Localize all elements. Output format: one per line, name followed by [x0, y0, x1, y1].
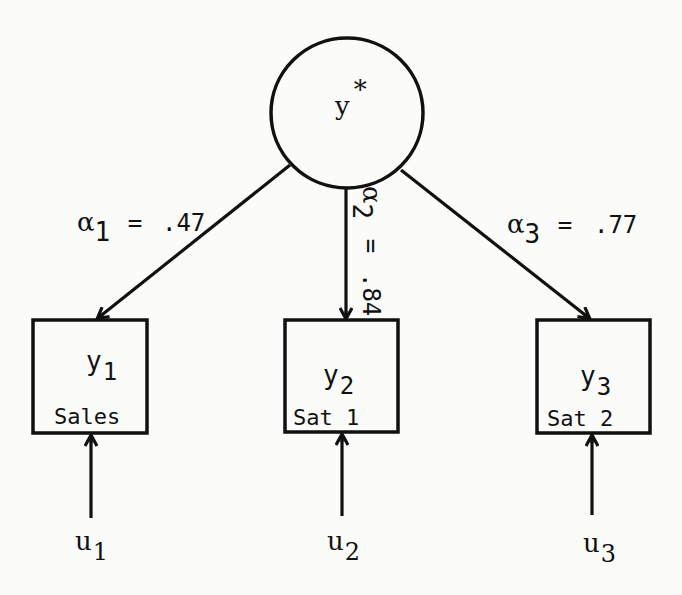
indicator-label-2: y2 — [323, 362, 354, 389]
path-diagram: y* α1 = .47 α2 = .84 α3 = .77 y1 Sales y… — [0, 0, 682, 595]
latent-label-star: * — [354, 75, 367, 105]
loading-arrow-1 — [98, 165, 290, 318]
error-label-sub: 1 — [93, 538, 108, 566]
alpha-symbol: α — [507, 209, 525, 239]
loading-value: .47 — [162, 209, 205, 237]
indicator-caption-1: Sales — [54, 406, 120, 428]
loading-label-3: α3 = .77 — [507, 211, 637, 238]
indicator-label-sub: 3 — [597, 373, 611, 401]
alpha-symbol: α — [77, 207, 95, 237]
loading-value: .84 — [357, 273, 385, 316]
loading-subscript: 2 — [347, 204, 377, 220]
indicator-label-base: y — [580, 361, 596, 391]
loading-subscript: 1 — [95, 217, 111, 247]
loading-label-1: α1 = .47 — [77, 209, 205, 236]
loading-subscript: 3 — [525, 219, 541, 249]
indicator-label-sub: 2 — [340, 372, 354, 400]
diagram-graphics — [0, 0, 682, 595]
indicator-label-3: y3 — [580, 363, 611, 390]
loading-value: .77 — [594, 211, 637, 239]
indicator-label-base: y — [323, 360, 339, 390]
error-label-base: u — [75, 526, 92, 556]
error-label-2: u2 — [327, 528, 360, 555]
error-label-sub: 2 — [345, 538, 360, 566]
equals-sign: = — [128, 209, 142, 237]
indicator-label-1: y1 — [86, 348, 117, 375]
loading-arrow-3 — [401, 170, 589, 318]
equals-sign: = — [558, 211, 572, 239]
indicator-label-base: y — [86, 346, 102, 376]
loading-label-2: α2 = .84 — [358, 186, 385, 316]
indicator-label-sub: 1 — [103, 358, 117, 386]
indicator-caption-2: Sat 1 — [293, 407, 359, 429]
error-label-sub: 3 — [601, 540, 616, 568]
equals-sign: = — [357, 239, 385, 253]
latent-label-base: y — [335, 91, 350, 121]
error-label-base: u — [327, 526, 344, 556]
error-label-3: u3 — [583, 530, 616, 557]
alpha-symbol: α — [357, 186, 387, 204]
latent-label: y* — [335, 93, 367, 119]
error-label-base: u — [583, 528, 600, 558]
indicator-caption-3: Sat 2 — [547, 408, 613, 430]
error-label-1: u1 — [75, 528, 108, 555]
